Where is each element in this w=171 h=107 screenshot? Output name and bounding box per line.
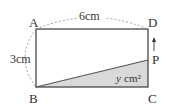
point-label-D: D <box>148 15 157 30</box>
dimension-label-top: 6cm <box>79 9 100 23</box>
dimension-label-left: 3cm <box>10 52 31 66</box>
arrow-head-icon <box>152 37 156 42</box>
point-label-B: B <box>29 91 38 106</box>
point-label-A: A <box>29 15 39 30</box>
point-label-C: C <box>148 91 157 106</box>
area-var: y <box>115 72 121 84</box>
point-label-P: P <box>152 52 159 67</box>
rectangle-diagram: A D B C P 6cm 3cm y cm² <box>0 0 171 107</box>
area-unit: cm² <box>124 72 141 84</box>
